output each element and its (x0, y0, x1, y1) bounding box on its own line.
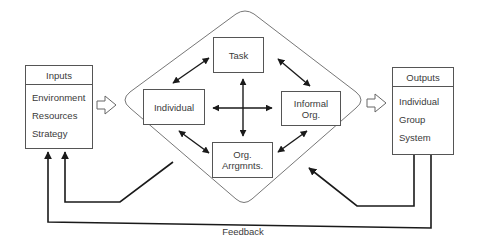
informal-label-line2: Org. (302, 109, 320, 120)
org-arrangements-line1: Org. (233, 149, 251, 160)
feedback-transformation-to-inputs (65, 152, 173, 202)
informal-label-line1: Informal (294, 98, 328, 109)
input-environment: Environment (32, 89, 92, 107)
individual-org-arrow (179, 131, 209, 153)
org-arrangements-line2: Arrgmnts. (222, 160, 263, 171)
output-group: Group (399, 111, 453, 129)
input-strategy: Strategy (32, 125, 92, 143)
individual-label: Individual (154, 102, 194, 113)
transformation-to-output-arrow (367, 94, 386, 112)
outputs-title: Outputs (393, 68, 453, 87)
task-label: Task (229, 50, 249, 61)
task-individual-arrow (173, 58, 209, 83)
inputs-title: Inputs (26, 66, 92, 85)
outputs-box: Outputs Individual Group System (392, 67, 454, 155)
feedback-label: Feedback (218, 227, 268, 238)
task-box: Task (213, 37, 264, 73)
task-informal-arrow (278, 59, 310, 86)
informal-org-box: Informal Org. (281, 91, 341, 126)
output-individual: Individual (399, 93, 453, 111)
output-system: System (399, 129, 453, 147)
informal-org-arrow (278, 131, 307, 152)
input-resources: Resources (32, 107, 92, 125)
org-arrangements-box: Org. Arrgmnts. (212, 142, 273, 178)
inputs-box: Inputs Environment Resources Strategy (25, 65, 93, 149)
input-to-transformation-arrow (97, 96, 116, 114)
individual-box: Individual (143, 89, 205, 125)
feedback-outputs-to-transformation (309, 154, 414, 206)
